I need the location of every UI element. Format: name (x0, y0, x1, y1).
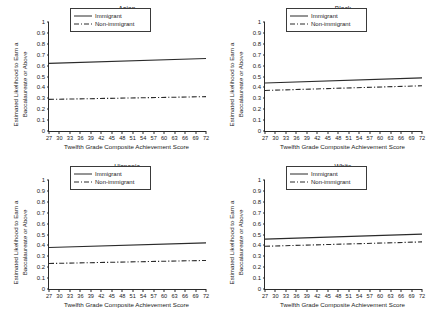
x-tick-mark (195, 131, 196, 134)
x-tick-mark (101, 289, 102, 292)
legend-line-dashdot-icon (290, 178, 308, 186)
y-tick-mark (47, 120, 50, 121)
x-tick-mark (49, 289, 50, 292)
plot-area-white: 00.10.20.30.40.50.60.70.80.9127303336394… (264, 180, 422, 290)
x-tick-mark (348, 289, 349, 292)
series-lines-black (265, 22, 422, 131)
plot-inner-white (265, 180, 422, 289)
x-tick-mark (185, 131, 186, 134)
x-tick-mark (317, 289, 318, 292)
series-line-non-immigrant (265, 242, 422, 246)
x-tick-mark (317, 131, 318, 134)
x-tick-mark (327, 131, 328, 134)
series-line-immigrant (265, 78, 422, 83)
x-tick-mark (164, 131, 165, 134)
legend-item-immigrant: Immigrant (290, 170, 362, 178)
y-axis-label-line1: Estimated Likelihood to Earn a (228, 25, 237, 145)
y-tick-mark (47, 65, 50, 66)
y-axis-label-line2: Baccalaureate or Above (236, 25, 245, 145)
y-tick-mark (263, 98, 266, 99)
x-tick-mark (122, 131, 123, 134)
x-tick-mark (185, 289, 186, 292)
x-tick-mark (380, 131, 381, 134)
x-tick-mark (275, 131, 276, 134)
y-tick-mark (47, 109, 50, 110)
y-tick-mark (47, 223, 50, 224)
y-tick-mark (263, 223, 266, 224)
y-tick-mark (47, 180, 50, 181)
legend-label-nonimmigrant: Non-immigrant (95, 20, 134, 28)
y-tick-mark (263, 120, 266, 121)
y-tick-mark (47, 54, 50, 55)
x-tick-mark (285, 289, 286, 292)
y-axis-label-hispanic: Estimated Likelihood to Earn a Baccalaur… (12, 183, 29, 303)
y-axis-label-line2: Baccalaureate or Above (236, 183, 245, 303)
x-tick-mark (422, 289, 423, 292)
x-tick-mark (411, 131, 412, 134)
x-tick-mark (296, 289, 297, 292)
legend-item-nonimmigrant: Non-immigrant (290, 178, 362, 186)
y-tick-mark (263, 278, 266, 279)
x-tick-mark (69, 131, 70, 134)
x-tick-mark (206, 131, 207, 134)
series-lines-white (265, 180, 422, 289)
x-tick-mark (111, 131, 112, 134)
legend-item-nonimmigrant: Non-immigrant (74, 178, 146, 186)
x-tick-mark (132, 289, 133, 292)
legend-white: Immigrant Non-immigrant (286, 166, 367, 190)
legend-item-nonimmigrant: Non-immigrant (74, 20, 146, 28)
legend-line-solid-icon (290, 170, 308, 178)
legend-hispanic: Immigrant Non-immigrant (70, 166, 151, 190)
legend-item-immigrant: Immigrant (74, 12, 146, 20)
y-axis-label-white: Estimated Likelihood to Earn a Baccalaur… (228, 183, 245, 303)
x-tick-mark (195, 289, 196, 292)
legend-label-immigrant: Immigrant (95, 12, 122, 20)
legend-label-nonimmigrant: Non-immigrant (311, 20, 350, 28)
x-tick-mark (164, 289, 165, 292)
y-axis-label-line2: Baccalaureate or Above (20, 25, 29, 145)
plot-inner-hispanic (49, 180, 206, 289)
y-tick-mark (47, 76, 50, 77)
x-tick-mark (348, 131, 349, 134)
y-tick-mark (263, 256, 266, 257)
x-axis-label-asian: Twelfth Grade Composite Achievement Scor… (48, 143, 205, 151)
x-tick-mark (153, 289, 154, 292)
y-axis-label-line1: Estimated Likelihood to Earn a (12, 183, 21, 303)
legend-item-nonimmigrant: Non-immigrant (290, 20, 362, 28)
plot-area-asian: 00.10.20.30.40.50.60.70.80.9127303336394… (48, 22, 206, 132)
y-tick-mark (263, 212, 266, 213)
panel-hispanic: Hispanic 00.10.20.30.40.50.60.70.80.9127… (0, 158, 215, 316)
x-tick-mark (143, 289, 144, 292)
legend-item-immigrant: Immigrant (290, 12, 362, 20)
y-axis-label-asian: Estimated Likelihood to Earn a Baccalaur… (12, 25, 29, 145)
y-tick-mark (263, 180, 266, 181)
x-tick-mark (80, 131, 81, 134)
legend-black: Immigrant Non-immigrant (286, 8, 367, 32)
plot-area-hispanic: 00.10.20.30.40.50.60.70.80.9127303336394… (48, 180, 206, 290)
x-axis-label-black: Twelfth Grade Composite Achievement Scor… (264, 143, 421, 151)
x-tick-mark (174, 289, 175, 292)
legend-line-solid-icon (74, 170, 92, 178)
x-tick-mark (265, 289, 266, 292)
x-tick-mark (206, 289, 207, 292)
y-tick-mark (263, 22, 266, 23)
x-tick-mark (153, 131, 154, 134)
x-tick-mark (359, 289, 360, 292)
panel-black: Black 00.10.20.30.40.50.60.70.80.9127303… (216, 0, 431, 158)
y-tick-mark (263, 201, 266, 202)
figure-multi-panel-line-charts: Asian 00.10.20.30.40.50.60.70.80.9127303… (0, 0, 431, 316)
series-line-immigrant (49, 243, 206, 248)
legend-line-dashdot-icon (290, 20, 308, 28)
series-line-immigrant (49, 59, 206, 64)
legend-line-dashdot-icon (74, 20, 92, 28)
x-tick-mark (122, 289, 123, 292)
legend-label-immigrant: Immigrant (311, 170, 338, 178)
y-tick-mark (47, 201, 50, 202)
x-tick-mark (80, 289, 81, 292)
panel-asian: Asian 00.10.20.30.40.50.60.70.80.9127303… (0, 0, 215, 158)
y-tick-mark (263, 234, 266, 235)
x-tick-mark (59, 289, 60, 292)
x-tick-mark (174, 131, 175, 134)
y-axis-label-line2: Baccalaureate or Above (20, 183, 29, 303)
series-line-immigrant (265, 234, 422, 239)
